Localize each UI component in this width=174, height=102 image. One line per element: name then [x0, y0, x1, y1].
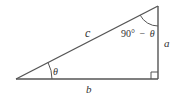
label-a: a	[164, 37, 170, 49]
label-theta: θ	[53, 66, 58, 77]
angle-arc-complement	[140, 15, 158, 26]
label-90-degrees: 90°	[121, 28, 135, 39]
label-b: b	[86, 83, 92, 95]
side-c-hypotenuse	[16, 6, 158, 79]
label-c: c	[85, 26, 91, 40]
label-theta-2: θ	[150, 28, 155, 39]
label-complement-angle: 90° − θ	[121, 28, 155, 39]
angle-arc-theta	[48, 63, 52, 80]
label-minus: −	[140, 28, 146, 39]
right-angle-marker	[151, 72, 158, 79]
right-triangle-diagram: c a b θ 90° − θ	[0, 0, 174, 102]
